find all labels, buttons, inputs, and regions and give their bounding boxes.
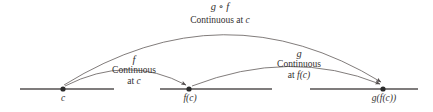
- caption-g-composed-f-text: Continuous at: [190, 15, 245, 25]
- point-g-of-f-of-c: [380, 86, 385, 91]
- composition-continuity-diagram: g ∘ f Continuous at c f Continuous at c …: [0, 0, 433, 112]
- label-block-f: f Continuous at c: [95, 54, 173, 87]
- label-block-g: g Continuous at f(c): [257, 48, 341, 81]
- point-f-of-c: [186, 86, 191, 91]
- caption-f-line2-point: c: [137, 76, 141, 86]
- caption-g-line2-prefix: at: [288, 70, 297, 80]
- function-label-f: f: [95, 54, 173, 65]
- caption-g-line2: at f(c): [257, 71, 341, 81]
- point-label-c: c: [48, 94, 78, 104]
- function-label-g-composed-f: g ∘ f: [160, 1, 280, 12]
- label-block-g-composed-f: g ∘ f Continuous at c: [160, 1, 280, 26]
- caption-f-line1: Continuous: [95, 66, 173, 76]
- caption-g-line1: Continuous: [257, 60, 341, 70]
- caption-f-line2: at c: [95, 77, 173, 87]
- caption-f-line2-prefix: at: [127, 76, 136, 86]
- point-label-f-of-c: f(c): [170, 94, 210, 104]
- caption-g-line2-point: f(c): [297, 70, 310, 80]
- caption-g-composed-f-point: c: [246, 15, 250, 25]
- function-label-g: g: [257, 48, 341, 59]
- point-c: [60, 86, 65, 91]
- point-label-g-of-f-of-c: g(f(c)): [356, 94, 412, 104]
- caption-g-composed-f: Continuous at c: [160, 16, 280, 26]
